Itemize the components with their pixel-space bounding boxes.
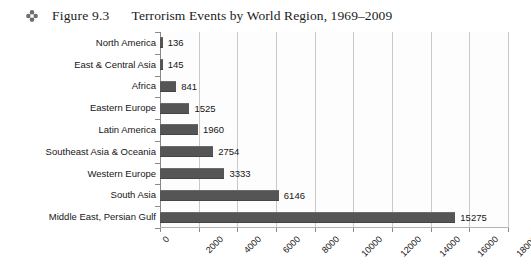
bar [160, 37, 163, 48]
x-tick-mark [469, 228, 470, 232]
bar [160, 190, 279, 201]
x-tick-label: 4000 [242, 234, 263, 255]
bar-value-label: 145 [168, 59, 184, 70]
x-tick-label: 18000 [514, 234, 531, 259]
gridline [508, 32, 509, 228]
x-tick-mark [160, 228, 161, 232]
x-tick-label: 6000 [281, 234, 302, 255]
bar [160, 124, 198, 135]
bar [160, 81, 176, 92]
y-axis-label: Eastern Europe [90, 102, 156, 113]
figure-caption: Figure 9.3 Terrorism Events by World Reg… [0, 4, 531, 28]
x-tick-label: 12000 [398, 234, 423, 259]
x-tick-label: 0 [160, 234, 171, 245]
y-axis-label: Southeast Asia & Oceania [46, 146, 156, 157]
x-tick-mark [315, 228, 316, 232]
bar-value-label: 1525 [194, 103, 215, 114]
bar-value-label: 1960 [203, 124, 224, 135]
plot-area: 1361458411525196027543333614615275 # of … [160, 32, 508, 228]
x-tick-mark [353, 228, 354, 232]
bar [160, 146, 213, 157]
bar [160, 59, 163, 70]
bar-row: 15275 [160, 206, 508, 228]
x-tick-mark [392, 228, 393, 232]
bar-value-label: 15275 [460, 212, 486, 223]
bar-chart: North AmericaEast & Central AsiaAfricaEa… [0, 28, 531, 275]
figure-title: Terrorism Events by World Region, 1969–2… [132, 8, 393, 24]
bar-value-label: 3333 [229, 168, 250, 179]
x-tick-label: 2000 [204, 234, 225, 255]
bar-row: 6146 [160, 184, 508, 206]
y-axis-label: East & Central Asia [74, 59, 156, 70]
bar [160, 212, 455, 223]
y-axis-label: South Asia [111, 189, 156, 200]
bar-row: 1525 [160, 97, 508, 119]
bar-value-label: 2754 [218, 146, 239, 157]
y-axis-label: Western Europe [88, 168, 156, 179]
x-tick-mark [508, 228, 509, 232]
y-axis-label: Middle East, Persian Gulf [49, 211, 156, 222]
bar-value-label: 841 [181, 81, 197, 92]
x-tick-mark [237, 228, 238, 232]
y-axis-label: Africa [132, 80, 156, 91]
bar-row: 145 [160, 54, 508, 76]
bar [160, 103, 189, 114]
figure-number: Figure 9.3 [52, 8, 110, 24]
x-tick-mark [199, 228, 200, 232]
x-tick-label: 16000 [476, 234, 501, 259]
y-axis-label: Latin America [98, 124, 156, 135]
bar [160, 168, 224, 179]
x-tick-label: 8000 [320, 234, 341, 255]
bar-value-label: 136 [168, 37, 184, 48]
x-tick-label: 14000 [437, 234, 462, 259]
y-axis-label: North America [96, 37, 156, 48]
bar-row: 2754 [160, 141, 508, 163]
x-tick-mark [276, 228, 277, 232]
x-tick-label: 10000 [360, 234, 385, 259]
bar-row: 841 [160, 76, 508, 98]
bar-value-label: 6146 [284, 190, 305, 201]
clover-bullet-icon [26, 10, 38, 22]
bar-row: 1960 [160, 119, 508, 141]
bar-row: 3333 [160, 163, 508, 185]
bar-row: 136 [160, 32, 508, 54]
x-tick-mark [431, 228, 432, 232]
